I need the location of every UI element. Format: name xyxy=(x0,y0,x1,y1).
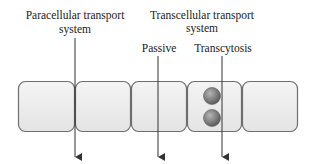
transcellular-label-line2: system xyxy=(186,22,218,35)
vesicle-top xyxy=(204,88,221,105)
transcytosis-label: Transcytosis xyxy=(194,42,252,55)
cell-1 xyxy=(19,82,75,132)
cell-5 xyxy=(243,82,298,132)
vesicle-bottom xyxy=(204,110,221,127)
paracellular-label-line2: system xyxy=(59,23,91,36)
passive-label: Passive xyxy=(142,42,177,54)
paracellular-label-line1: Paracellular transport xyxy=(26,9,125,22)
transport-diagram: Paracellular transport system Transcellu… xyxy=(0,0,312,164)
label-layer: Paracellular transport system Transcellu… xyxy=(26,9,255,55)
transcellular-label-line1: Transcellular transport xyxy=(150,9,255,22)
cell-3 xyxy=(132,82,187,132)
cell-2 xyxy=(76,82,131,132)
